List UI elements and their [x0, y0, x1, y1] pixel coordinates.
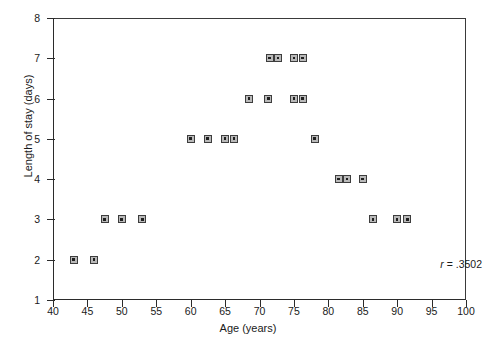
correlation-relation: = — [444, 258, 456, 270]
x-axis-tick-label: 85 — [348, 305, 378, 317]
data-point — [230, 135, 238, 143]
y-axis-tick — [47, 58, 55, 59]
x-axis-tick-label: 100 — [451, 305, 481, 317]
data-point — [290, 95, 298, 103]
data-point — [264, 95, 272, 103]
x-axis-tick-label: 80 — [313, 305, 343, 317]
data-point — [101, 215, 109, 223]
x-axis-tick-label: 95 — [417, 305, 447, 317]
y-axis-tick — [47, 260, 55, 261]
x-axis-tick-label: 40 — [38, 305, 68, 317]
y-axis-tick — [47, 219, 55, 220]
data-point — [369, 215, 377, 223]
y-axis-tick — [47, 99, 55, 100]
data-point — [138, 215, 146, 223]
x-axis-tick-label: 50 — [107, 305, 137, 317]
x-axis-tick-label: 55 — [141, 305, 171, 317]
x-axis-tick-label: 60 — [176, 305, 206, 317]
scatter-plot-figure: 12345678 404550556065707580859095100 Len… — [0, 0, 496, 342]
data-point — [187, 135, 195, 143]
plot-area — [53, 18, 466, 300]
data-point — [245, 95, 253, 103]
y-axis-tick — [47, 179, 55, 180]
data-point — [70, 256, 78, 264]
x-axis-tick-label: 70 — [245, 305, 275, 317]
x-axis-tick-label: 45 — [72, 305, 102, 317]
data-point — [118, 215, 126, 223]
data-point — [221, 135, 229, 143]
correlation-value: .3502 — [456, 258, 482, 270]
data-point — [335, 175, 343, 183]
y-axis-tick — [47, 18, 55, 19]
data-point — [299, 54, 307, 62]
x-axis-tick-label: 75 — [279, 305, 309, 317]
data-point — [393, 215, 401, 223]
correlation-annotation: r = .3502 — [440, 258, 482, 270]
data-point — [299, 95, 307, 103]
data-point — [274, 54, 282, 62]
data-point — [343, 175, 351, 183]
data-point — [266, 54, 274, 62]
x-axis-tick-label: 65 — [210, 305, 240, 317]
y-axis-tick-label: 2 — [18, 255, 40, 265]
y-axis-title: Length of stay (days) — [22, 46, 34, 206]
data-point — [204, 135, 212, 143]
x-axis-tick-label: 90 — [382, 305, 412, 317]
y-axis-tick-label: 1 — [18, 295, 40, 305]
x-axis-title: Age (years) — [0, 322, 496, 334]
y-axis-tick — [47, 139, 55, 140]
data-point — [403, 215, 411, 223]
data-point — [290, 54, 298, 62]
y-axis-tick-label: 8 — [18, 13, 40, 23]
data-point — [359, 175, 367, 183]
data-point — [311, 135, 319, 143]
data-point — [90, 256, 98, 264]
y-axis-tick-label: 3 — [18, 214, 40, 224]
